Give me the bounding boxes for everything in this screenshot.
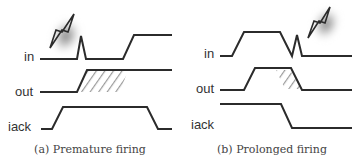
signal-label-in: in <box>24 49 34 64</box>
waveform-iack <box>41 107 172 129</box>
caption-premature-firing: (a) Premature firing <box>34 143 146 156</box>
signal-label-out: out <box>15 84 33 99</box>
signal-label-in: in <box>204 46 214 61</box>
caption-prolonged-firing: (b) Prolonged firing <box>217 143 327 156</box>
signal-label-iack: iack <box>8 119 32 134</box>
lightning-bolt-icon <box>308 4 344 43</box>
signal-label-out: out <box>196 81 214 96</box>
timing-diagram: in out iack (a) Premature firing in out … <box>0 0 364 163</box>
signal-label-iack: iack <box>191 117 215 132</box>
waveform-in <box>220 32 352 56</box>
panel-premature-firing: in out iack (a) Premature firing <box>8 14 172 156</box>
panel-prolonged-firing: in out iack (b) Prolonged firing <box>191 4 352 156</box>
waveform-iack <box>220 104 352 128</box>
